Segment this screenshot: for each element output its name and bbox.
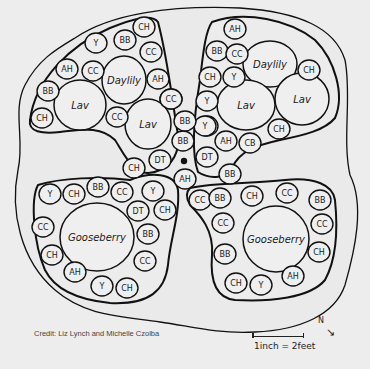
plant-label: CC <box>87 67 99 76</box>
plant-ah: AH <box>56 59 78 79</box>
plant-label: CC <box>165 95 177 104</box>
plant-label: Y <box>150 187 156 196</box>
plant-label: CH <box>230 279 242 288</box>
plant-label: AH <box>220 137 232 146</box>
credit-text: Credit: Liz Lynch and Michelle Czolba <box>34 329 159 338</box>
plant-bb: BB <box>214 244 236 264</box>
plant-label: CC <box>145 48 157 57</box>
plant-ah: AH <box>147 69 169 89</box>
plant-lav: Lav <box>217 80 275 130</box>
plant-ch: CH <box>154 200 176 220</box>
plant-label: BB <box>143 230 154 239</box>
plant-y: Y <box>85 33 107 53</box>
plant-ch: CH <box>31 108 53 128</box>
plant-label: CH <box>313 248 325 257</box>
plant-bb: BB <box>309 190 331 210</box>
north-label: N <box>318 316 324 325</box>
plant-bb: BB <box>206 41 228 61</box>
plant-y: Y <box>142 181 164 201</box>
plant-label: DT <box>132 207 143 216</box>
plant-label: Gooseberry <box>68 232 127 243</box>
garden-diagram: DaylilyLavLavCHYBBCCAHCCAHBBCCCHCCDaylil… <box>0 0 370 369</box>
scale-text: 1inch = 2feet <box>254 341 315 351</box>
plant-label: CC <box>194 196 206 205</box>
plant-bb: BB <box>174 111 196 131</box>
plant-bb: BB <box>219 164 241 184</box>
plant-label: BB <box>180 117 191 126</box>
plant-cc: CC <box>160 89 182 109</box>
plant-label: AH <box>152 75 164 84</box>
plant-label: CC <box>231 50 243 59</box>
plant-label: CH <box>273 125 285 134</box>
plant-label: CH <box>303 66 315 75</box>
plant-gooseberry: Gooseberry <box>243 206 309 272</box>
plant-ch: CH <box>241 186 263 206</box>
plant-label: Daylily <box>107 75 142 86</box>
plant-cc: CC <box>134 251 156 271</box>
plant-ch: CH <box>41 245 63 265</box>
plant-bb: BB <box>37 81 59 101</box>
plant-cc: CC <box>32 217 54 237</box>
plant-ch: CH <box>116 278 138 298</box>
plant-label: CH <box>159 206 171 215</box>
plant-label: CB <box>244 139 255 148</box>
plant-label: CC <box>316 220 328 229</box>
plant-y: Y <box>91 276 113 296</box>
plant-cc: CC <box>311 214 333 234</box>
center-marker <box>181 158 187 164</box>
plant-label: DT <box>154 156 165 165</box>
plant-cc: CC <box>226 44 248 64</box>
plant-label: AH <box>69 268 81 277</box>
plant-bb: BB <box>114 30 136 50</box>
plant-label: Y <box>47 190 53 199</box>
plant-label: CH <box>36 114 48 123</box>
plant-ah: AH <box>64 262 86 282</box>
plant-ah: AH <box>224 19 246 39</box>
plant-label: CC <box>139 257 151 266</box>
plant-label: CC <box>37 223 49 232</box>
plant-label: CH <box>204 73 216 82</box>
plant-label: AH <box>287 272 299 281</box>
plant-y: Y <box>39 184 61 204</box>
plant-label: BB <box>120 36 131 45</box>
plant-label: Y <box>258 281 264 290</box>
plant-label: Lav <box>293 94 312 105</box>
plant-label: Lav <box>237 100 256 111</box>
plant-ch: CH <box>225 273 247 293</box>
plant-label: Lav <box>139 119 158 130</box>
plant-bb: BB <box>209 188 231 208</box>
plant-bb: BB <box>172 131 194 151</box>
plant-cc: CC <box>82 61 104 81</box>
plant-ch: CH <box>133 17 155 37</box>
plant-cc: CC <box>111 182 133 202</box>
plant-ch: CH <box>268 119 290 139</box>
plant-cc: CC <box>212 213 234 233</box>
plant-lav: Lav <box>54 80 106 130</box>
plant-label: BB <box>225 170 236 179</box>
plant-label: CC <box>111 113 123 122</box>
plant-label: DT <box>201 153 212 162</box>
plant-label: BB <box>315 196 326 205</box>
plant-y: Y <box>223 67 245 87</box>
plant-ch: CH <box>298 60 320 80</box>
plant-dt: DT <box>196 147 218 167</box>
plant-label: Y <box>202 122 208 131</box>
plant-dt: DT <box>149 150 171 170</box>
plant-label: Daylily <box>253 59 288 70</box>
plant-label: CH <box>46 251 58 260</box>
plant-label: CC <box>281 189 293 198</box>
plant-label: CH <box>128 164 140 173</box>
plant-bb: BB <box>87 177 109 197</box>
plant-cc: CC <box>106 107 128 127</box>
plant-label: Y <box>204 97 210 106</box>
plant-label: CC <box>116 188 128 197</box>
plant-label: AH <box>179 175 191 184</box>
plant-dt: DT <box>127 201 149 221</box>
plant-ah: AH <box>174 169 196 189</box>
plant-label: Y <box>231 73 237 82</box>
plant-label: BB <box>178 137 189 146</box>
plant-cc: CC <box>276 183 298 203</box>
plant-label: Y <box>99 282 105 291</box>
plant-y: Y <box>194 116 216 136</box>
plant-label: CH <box>138 23 150 32</box>
